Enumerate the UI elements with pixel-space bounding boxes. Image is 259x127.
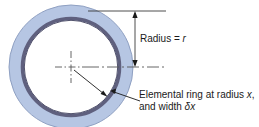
radius-label-symbol: r [183,33,186,44]
radius-label: Radius = r [140,33,186,45]
radius-label-prefix: Radius = [140,33,183,44]
elemental-caption-delta-x: δx [185,101,196,112]
dimension-arrowhead-up-icon [132,11,137,18]
elemental-caption-line1: Elemental ring at radius [139,89,247,100]
elemental-ring-caption: Elemental ring at radius x, and width δx [139,89,257,113]
annulus-diagram: Radius = r Elemental ring at radius x, a… [0,0,259,127]
